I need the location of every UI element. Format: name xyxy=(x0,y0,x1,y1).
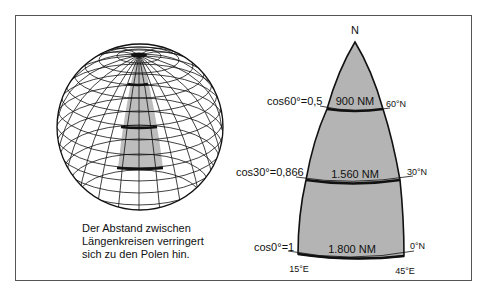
lat-0n-label: 0°N xyxy=(410,241,425,251)
caption-line-1: Der Abstand zwischen xyxy=(82,222,252,235)
caption-line-2: Längenkreisen verringert xyxy=(82,235,252,248)
cos0-label: cos0°=1 xyxy=(254,241,294,253)
north-label: N xyxy=(351,24,359,36)
cos30-label: cos30°=0,866 xyxy=(236,166,304,178)
distance-30n-label: 1.560 NM xyxy=(331,168,379,180)
segment-shape xyxy=(298,42,404,259)
meridian-segment xyxy=(288,42,414,259)
cos60-label: cos60°=0,5 xyxy=(267,95,322,107)
caption-line-3: sich zu den Polen hin. xyxy=(82,248,252,261)
globe-caption: Der Abstand zwischen Längenkreisen verri… xyxy=(82,222,252,261)
globe-illustration xyxy=(55,44,223,226)
distance-0n-label: 1.800 NM xyxy=(328,243,376,255)
lat-60n-label: 60°N xyxy=(386,99,406,109)
distance-60n-label: 900 NM xyxy=(336,95,375,107)
longitude-45e-label: 45°E xyxy=(395,266,415,276)
longitude-15e-label: 15°E xyxy=(289,264,309,274)
lat-30n-label: 30°N xyxy=(407,167,427,177)
